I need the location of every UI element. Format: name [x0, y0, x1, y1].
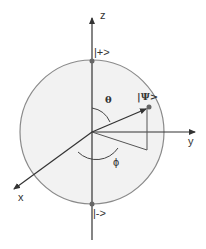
- theta-label: θ: [105, 95, 112, 105]
- psi-state-dot: [147, 105, 152, 110]
- minus-state-dot: [90, 202, 95, 207]
- plus-state-label: |+>: [94, 47, 110, 58]
- z-axis-label: z: [100, 10, 106, 21]
- y-axis-label: y: [188, 136, 194, 147]
- phi-label: ϕ: [113, 157, 119, 168]
- x-axis-label: x: [18, 192, 24, 203]
- psi-state-label: |Ψ>: [137, 92, 158, 102]
- minus-state-label: |->: [93, 208, 106, 219]
- plus-state-dot: [90, 59, 95, 64]
